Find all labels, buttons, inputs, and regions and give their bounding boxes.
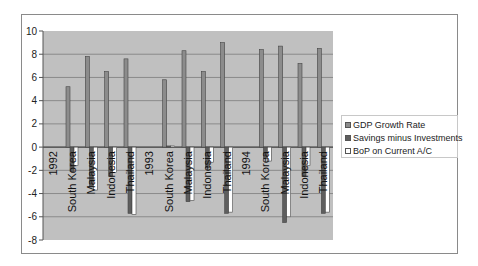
x-category-label: Indonesia bbox=[105, 150, 117, 199]
y-tick-label: -8 bbox=[28, 235, 37, 246]
legend-item-gdp: GDP Growth Rate bbox=[345, 118, 457, 131]
legend-label: BoP on Current A/C bbox=[353, 146, 432, 156]
bar bbox=[163, 80, 167, 147]
bar bbox=[317, 48, 321, 147]
x-category-label: Malaysia bbox=[279, 150, 291, 194]
x-category-label: Indonesia bbox=[298, 150, 310, 199]
y-axis-ticks: 1086420-2-4-6-8 bbox=[26, 26, 43, 246]
x-category-label: 1993 bbox=[143, 151, 155, 175]
x-category-label: South Korea bbox=[163, 150, 175, 212]
x-category-label: Indonesia bbox=[201, 150, 213, 199]
x-category-label: South Korea bbox=[66, 150, 78, 212]
x-category-label: Thailand bbox=[221, 151, 233, 193]
y-tick-label: -2 bbox=[28, 165, 37, 176]
y-tick-label: -4 bbox=[28, 188, 37, 199]
y-tick-label: -6 bbox=[28, 211, 37, 222]
bar bbox=[182, 51, 186, 147]
x-category-label: Malaysia bbox=[85, 150, 97, 194]
bar bbox=[279, 46, 283, 147]
swatch-gdp-icon bbox=[345, 122, 351, 128]
bar bbox=[66, 87, 70, 147]
y-tick-label: 8 bbox=[31, 49, 37, 60]
bar bbox=[85, 57, 89, 148]
swatch-savings-icon bbox=[345, 135, 351, 141]
bar bbox=[201, 72, 205, 147]
x-category-label: South Korea bbox=[259, 150, 271, 212]
bar bbox=[171, 146, 175, 147]
bar bbox=[259, 50, 263, 148]
legend-item-bop: BoP on Current A/C bbox=[345, 144, 457, 157]
legend-item-savings: Savings minus Investments bbox=[345, 131, 457, 144]
x-category-label: Thailand bbox=[317, 151, 329, 193]
legend-label: GDP Growth Rate bbox=[353, 120, 425, 130]
y-tick-label: 6 bbox=[31, 72, 37, 83]
x-category-label: 1992 bbox=[47, 151, 59, 175]
legend: GDP Growth Rate Savings minus Investment… bbox=[341, 115, 458, 158]
bar bbox=[105, 72, 109, 147]
bar bbox=[124, 59, 128, 147]
y-tick-label: 10 bbox=[26, 26, 38, 37]
x-category-label: Malaysia bbox=[182, 150, 194, 194]
y-tick-label: 4 bbox=[31, 95, 37, 106]
x-category-label: 1994 bbox=[240, 151, 252, 175]
x-category-label: Thailand bbox=[124, 151, 136, 193]
bar bbox=[167, 146, 171, 147]
y-tick-label: 0 bbox=[31, 142, 37, 153]
y-tick-label: 2 bbox=[31, 118, 37, 129]
legend-label: Savings minus Investments bbox=[353, 133, 463, 143]
bar bbox=[221, 43, 225, 148]
bar bbox=[298, 64, 302, 148]
swatch-bop-icon bbox=[345, 148, 351, 154]
